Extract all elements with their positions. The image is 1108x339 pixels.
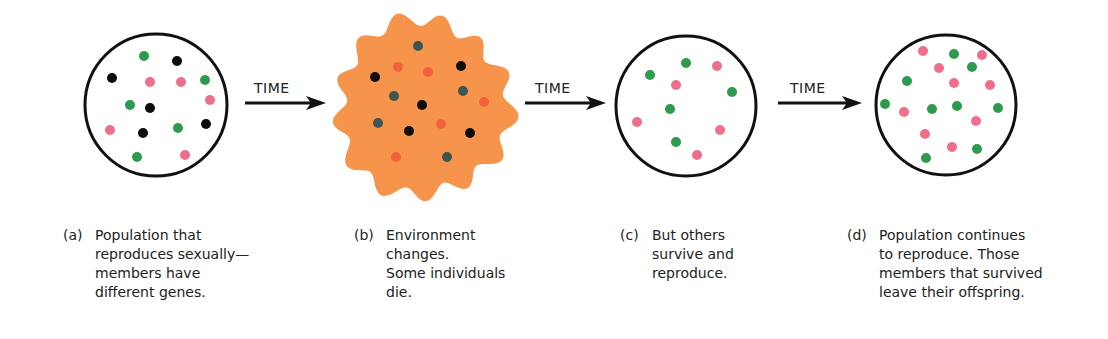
black-individual-dot	[465, 128, 475, 138]
caption-line: changes.	[386, 245, 505, 264]
caption-tag-d: (d)	[847, 226, 867, 245]
caption-line: reproduces sexually—	[95, 245, 249, 264]
caption-body-b: Environment changes. Some individuals di…	[386, 226, 505, 302]
caption-line: Population that	[95, 226, 249, 245]
caption-line: Some individuals	[386, 264, 505, 283]
caption-tag-a: (a)	[63, 226, 83, 245]
orange-red-individual-dot	[423, 67, 433, 77]
panel-c-survivors	[616, 36, 756, 176]
pink-individual-dot	[712, 61, 722, 71]
green-individual-dot	[727, 87, 737, 97]
green-individual-dot	[139, 51, 149, 61]
orange-red-individual-dot	[436, 119, 446, 129]
green-individual-dot	[993, 103, 1003, 113]
green-individual-dot	[681, 58, 691, 68]
pink-individual-dot	[985, 80, 995, 90]
caption-body-a: Population that reproduces sexually— mem…	[95, 226, 249, 302]
green-individual-dot	[921, 153, 931, 163]
caption-line: different genes.	[95, 283, 249, 302]
panel-a-population	[85, 34, 227, 176]
population-circle-c	[616, 36, 756, 176]
caption-line: But others	[652, 226, 734, 245]
black-individual-dot	[417, 100, 427, 110]
orange-red-individual-dot	[479, 97, 489, 107]
pink-individual-dot	[692, 150, 702, 160]
green-individual-dot	[902, 76, 912, 86]
caption-body-c: But others survive and reproduce.	[652, 226, 734, 283]
black-individual-dot	[145, 103, 155, 113]
caption-line: members have	[95, 264, 249, 283]
pink-individual-dot	[176, 77, 186, 87]
dark-teal-individual-dot	[413, 41, 423, 51]
caption-tag-b: (b)	[354, 226, 374, 245]
green-individual-dot	[200, 75, 210, 85]
pink-individual-dot	[205, 95, 215, 105]
caption-tag-c: (c)	[620, 226, 639, 245]
black-individual-dot	[138, 128, 148, 138]
pink-individual-dot	[671, 80, 681, 90]
black-individual-dot	[370, 72, 380, 82]
caption-line: survive and	[652, 245, 734, 264]
dark-teal-individual-dot	[458, 86, 468, 96]
time-arrow-1	[245, 96, 326, 110]
pink-individual-dot	[105, 125, 115, 135]
caption-line: Population continues	[879, 226, 1043, 245]
pink-individual-dot	[934, 63, 944, 73]
dark-teal-individual-dot	[442, 152, 452, 162]
pink-individual-dot	[920, 129, 930, 139]
time-arrow-3	[778, 96, 862, 110]
pink-individual-dot	[918, 46, 928, 56]
green-individual-dot	[880, 99, 890, 109]
green-individual-dot	[952, 101, 962, 111]
pink-individual-dot	[715, 125, 725, 135]
pink-individual-dot	[949, 78, 959, 88]
green-individual-dot	[671, 137, 681, 147]
pink-individual-dot	[632, 117, 642, 127]
pink-individual-dot	[899, 107, 909, 117]
caption-line: members that survived	[879, 264, 1043, 283]
black-individual-dot	[456, 61, 466, 71]
green-individual-dot	[173, 123, 183, 133]
black-individual-dot	[404, 126, 414, 136]
orange-red-individual-dot	[391, 152, 401, 162]
caption-line: die.	[386, 283, 505, 302]
pink-individual-dot	[145, 77, 155, 87]
pink-individual-dot	[947, 142, 957, 152]
caption-line: leave their offspring.	[879, 283, 1043, 302]
green-individual-dot	[132, 152, 142, 162]
pink-individual-dot	[971, 116, 981, 126]
green-individual-dot	[927, 104, 937, 114]
caption-line: Environment	[386, 226, 505, 245]
time-label-1: TIME	[254, 80, 290, 96]
time-label-3: TIME	[790, 80, 826, 96]
dark-teal-individual-dot	[389, 91, 399, 101]
green-individual-dot	[967, 62, 977, 72]
caption-body-d: Population continues to reproduce. Those…	[879, 226, 1043, 302]
green-individual-dot	[972, 144, 982, 154]
green-individual-dot	[125, 100, 135, 110]
caption-line: reproduce.	[652, 264, 734, 283]
time-arrow-2	[525, 96, 606, 110]
black-individual-dot	[107, 73, 117, 83]
green-individual-dot	[645, 70, 655, 80]
pink-individual-dot	[180, 150, 190, 160]
panel-d-offspring	[876, 35, 1016, 175]
black-individual-dot	[201, 119, 211, 129]
panel-b-environment	[333, 14, 519, 202]
dark-teal-individual-dot	[373, 118, 383, 128]
time-label-2: TIME	[535, 80, 571, 96]
black-individual-dot	[172, 56, 182, 66]
pink-individual-dot	[977, 50, 987, 60]
caption-line: to reproduce. Those	[879, 245, 1043, 264]
population-circle-a	[85, 34, 227, 176]
orange-red-individual-dot	[393, 62, 403, 72]
green-individual-dot	[665, 104, 675, 114]
green-individual-dot	[949, 49, 959, 59]
